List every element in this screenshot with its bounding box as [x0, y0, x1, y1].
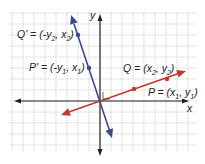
label-p-prime: P' = (-y1, x1)	[29, 61, 85, 75]
y-axis-label: y	[89, 9, 96, 21]
rotated-line-arrow-down-icon	[105, 128, 113, 138]
rotated-line-arrow-up-icon	[70, 15, 78, 25]
label-p: P = (x1, y1)	[148, 86, 198, 100]
point-p	[165, 77, 169, 81]
label-q-prime: Q' = (-y2, x2)	[17, 28, 74, 42]
rotated-line	[74, 24, 110, 132]
original-line-arrow-right-icon	[176, 70, 186, 78]
coordinate-diagram: x y Q' = (-y2, x2) P' = (-y1, x1) Q = (x…	[0, 0, 205, 164]
y-axis-bottom-arrow-icon	[98, 149, 103, 156]
x-axis-label: x	[186, 102, 193, 114]
point-q	[132, 87, 136, 91]
original-line-arrow-left-icon	[61, 108, 71, 116]
point-p-prime	[87, 66, 91, 70]
y-axis-top-arrow-icon	[98, 14, 103, 21]
label-q: Q = (x2, y2)	[123, 62, 174, 76]
x-axis-left-arrow-icon	[14, 99, 21, 104]
point-q-prime	[76, 33, 80, 37]
